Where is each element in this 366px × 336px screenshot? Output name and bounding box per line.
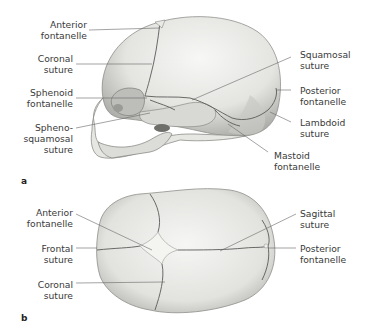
label-line: Posterior (300, 243, 346, 254)
label-line: Anterior (0, 207, 73, 218)
label-line: suture (300, 128, 345, 139)
label-line: Coronal (0, 53, 73, 64)
label-line: fontanelle (274, 161, 320, 172)
label-squamosal-suture: Squamosal suture (300, 49, 351, 71)
label-line: Sphenoid (0, 87, 73, 98)
superior-skull (97, 189, 275, 313)
mandible (98, 132, 172, 158)
skull-vertex (97, 189, 275, 313)
label-line: Mastoid (274, 150, 320, 161)
label-sagittal-suture: Sagittal suture (300, 208, 335, 230)
panel-letter-b: b (21, 313, 27, 323)
label-line: suture (300, 60, 351, 71)
label-anterior-fontanelle-a: Anterior fontanelle (10, 19, 87, 41)
label-line: suture (0, 290, 73, 301)
label-mastoid-fontanelle: Mastoid fontanelle (274, 150, 320, 172)
label-coronal-suture-b: Coronal suture (0, 279, 73, 301)
label-line: Squamosal (300, 49, 351, 60)
label-line: Spheno- (0, 122, 73, 133)
label-frontal-suture: Frontal suture (0, 243, 73, 265)
label-line: Lambdoid (300, 117, 345, 128)
label-line: fontanelle (300, 254, 346, 265)
label-coronal-suture-a: Coronal suture (0, 53, 73, 75)
label-line: suture (0, 254, 73, 265)
label-lambdoid-suture: Lambdoid suture (300, 117, 345, 139)
label-posterior-fontanelle-b: Posterior fontanelle (300, 243, 346, 265)
label-line: squamosal (0, 133, 73, 144)
label-line: Frontal (0, 243, 73, 254)
posterior-fontanelle-point (264, 244, 268, 248)
lateral-skull (91, 17, 280, 159)
label-sphenoid-fontanelle: Sphenoid fontanelle (0, 87, 73, 109)
label-line: suture (300, 219, 335, 230)
nasal-cavity (113, 104, 123, 112)
label-line: Anterior (10, 19, 87, 30)
label-line: fontanelle (10, 30, 87, 41)
cavity (154, 124, 170, 132)
panel-letter-a: a (21, 176, 27, 186)
label-line: suture (0, 64, 73, 75)
label-line: fontanelle (0, 98, 73, 109)
label-anterior-fontanelle-b: Anterior fontanelle (0, 207, 73, 229)
label-line: fontanelle (0, 218, 73, 229)
label-line: fontanelle (300, 96, 346, 107)
infant-skull-figure: Anterior fontanelle Coronal suture Sphen… (0, 0, 366, 336)
label-posterior-fontanelle-a: Posterior fontanelle (300, 85, 346, 107)
label-spheno-squamosal-suture: Spheno- squamosal suture (0, 122, 73, 155)
label-line: Posterior (300, 85, 346, 96)
label-line: suture (0, 144, 73, 155)
label-line: Coronal (0, 279, 73, 290)
label-line: Sagittal (300, 208, 335, 219)
